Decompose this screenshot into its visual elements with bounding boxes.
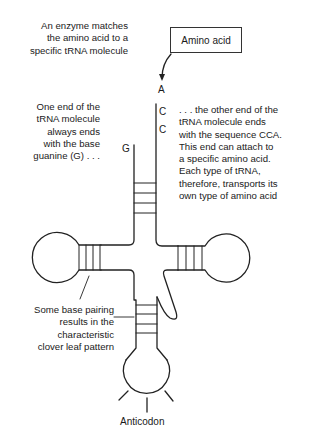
base-g: G xyxy=(122,143,130,155)
anticodon-loop xyxy=(124,360,170,393)
annotation-line: always ends xyxy=(33,126,100,138)
pairing-leader-1 xyxy=(80,276,89,299)
annotation-line: Some base pairing xyxy=(34,304,114,316)
amino-acid-label: Amino acid xyxy=(181,35,230,46)
base-c-1: C xyxy=(159,106,166,118)
left-loop xyxy=(32,233,101,283)
right-loop xyxy=(178,234,250,282)
acceptor-left-strand xyxy=(101,145,134,245)
annotation-line: This end can attach to xyxy=(179,141,282,153)
acceptor-stem-rungs xyxy=(134,183,156,213)
annotation-line: guanine (G) . . . xyxy=(33,150,100,162)
base-a: A xyxy=(158,84,165,96)
annotation-line: own type of amino acid xyxy=(179,190,282,202)
annotation-line: with the base xyxy=(33,138,100,150)
annotation-line: therefore, transports its xyxy=(179,178,282,190)
cca-end-annotation: . . . the other end of the tRNA molecule… xyxy=(179,104,282,202)
guanine-end-annotation: One end of the tRNA molecule always ends… xyxy=(33,101,100,162)
annotation-line: . . . the other end of the xyxy=(179,104,282,116)
annotation-line: tRNA molecule ends xyxy=(179,116,282,128)
annotation-line: An enzyme matches xyxy=(30,20,128,32)
anticodon-stem-rungs xyxy=(136,305,157,333)
right-arm-rungs xyxy=(178,246,202,270)
arrow-head-icon xyxy=(159,74,165,81)
annotation-line: tRNA molecule xyxy=(33,113,100,125)
annotation-line: specific tRNA molecule xyxy=(30,45,128,57)
enzyme-annotation: An enzyme matches the amino acid to a sp… xyxy=(30,20,128,57)
annotation-line: results in the xyxy=(34,316,114,328)
variable-loop xyxy=(157,270,178,319)
annotation-line: One end of the xyxy=(33,101,100,113)
base-pairing-annotation: Some base pairing results in the charact… xyxy=(34,304,114,353)
annotation-line: clover leaf pattern xyxy=(34,341,114,353)
annotation-line: Each type of tRNA, xyxy=(179,165,282,177)
anticodon-label: Anticodon xyxy=(120,416,164,428)
annotation-line: the amino acid to a xyxy=(30,32,128,44)
trna-clover-leaf-drawing xyxy=(0,0,312,441)
amino-acid-box: Amino acid xyxy=(170,27,242,53)
annotation-line: a specific amino acid. xyxy=(179,153,282,165)
annotation-line: characteristic xyxy=(34,329,114,341)
base-c-2: C xyxy=(159,124,166,136)
annotation-line: with the sequence CCA. xyxy=(179,129,282,141)
left-arm-rungs xyxy=(79,245,100,270)
